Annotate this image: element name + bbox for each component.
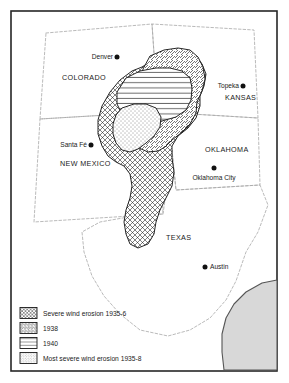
city-label-austin: Austin	[210, 263, 229, 270]
state-label-kansas: KANSAS	[225, 93, 256, 102]
state-label-colorado: COLORADO	[62, 73, 106, 82]
map-canvas: Denver Topeka Santa Fé Oklahoma City Aus…	[0, 0, 289, 383]
city-dot-oklahoma-city	[212, 166, 217, 171]
legend-swatch-crosshatch-icon	[20, 308, 37, 319]
dust-bowl-map-figure: Denver Topeka Santa Fé Oklahoma City Aus…	[0, 0, 289, 383]
city-dot-santa-fe	[89, 143, 94, 148]
city-dot-denver	[115, 55, 120, 60]
city-dot-topeka	[241, 84, 246, 89]
legend-swatch-stipple-icon	[20, 353, 37, 364]
city-label-oklahoma-city: Oklahoma City	[192, 174, 236, 182]
legend-swatch-diagonal-icon	[20, 323, 37, 334]
city-label-denver: Denver	[92, 53, 114, 60]
legend-label-most-severe-1935-8: Most severe wind erosion 1935-8	[43, 355, 142, 362]
state-label-oklahoma: OKLAHOMA	[205, 145, 249, 154]
legend-label-1938: 1938	[43, 325, 58, 332]
state-label-texas: TEXAS	[166, 233, 191, 242]
city-label-topeka: Topeka	[218, 82, 240, 90]
legend-label-severe-1935-6: Severe wind erosion 1935-6	[43, 310, 127, 317]
legend-label-1940: 1940	[43, 340, 58, 347]
state-label-new-mexico: NEW MEXICO	[60, 159, 111, 168]
legend-item-severe-1935-6: Severe wind erosion 1935-6	[20, 308, 127, 319]
city-label-santa-fe: Santa Fé	[60, 141, 87, 148]
city-dot-austin	[203, 265, 208, 270]
legend-swatch-horizontal-icon	[20, 338, 37, 349]
